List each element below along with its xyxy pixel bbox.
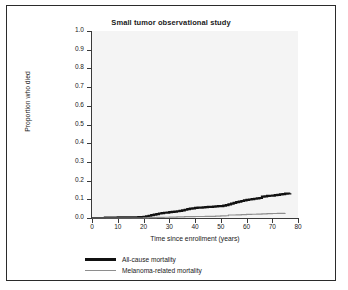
y-tick-label: 0.5 [66, 121, 84, 128]
y-tick-mark [87, 87, 91, 88]
y-tick-mark [87, 199, 91, 200]
y-tick-mark [87, 218, 91, 219]
survival-curve-chart: Small tumor observational study 0.00.10.… [7, 6, 335, 280]
y-tick-label: 0.1 [66, 195, 84, 202]
y-tick-label: 0.7 [66, 83, 84, 90]
y-tick-label: 0.4 [66, 139, 84, 146]
y-tick-label: 0.9 [66, 46, 84, 53]
chart-title: Small tumor observational study [7, 18, 335, 27]
y-tick-label: 0.6 [66, 102, 84, 109]
x-tick-label: 60 [237, 224, 257, 231]
x-tick-label: 0 [82, 224, 102, 231]
legend-item-all-cause: All-cause mortality [85, 254, 285, 265]
plot-area [92, 31, 298, 218]
y-tick-label: 0.0 [66, 214, 84, 221]
x-tick-label: 70 [262, 224, 282, 231]
x-tick-label: 80 [288, 224, 308, 231]
legend-label-melanoma: Melanoma-related mortality [122, 267, 202, 274]
legend-label-all-cause: All-cause mortality [122, 256, 176, 263]
legend-line-icon-melanoma [85, 270, 116, 271]
y-tick-mark [87, 125, 91, 126]
y-tick-mark [87, 50, 91, 51]
y-tick-mark [87, 181, 91, 182]
y-tick-label: 0.2 [66, 177, 84, 184]
y-tick-mark [87, 143, 91, 144]
figure-frame: Small tumor observational study 0.00.10.… [6, 5, 336, 281]
x-tick-label: 50 [211, 224, 231, 231]
plot-curves [92, 31, 298, 218]
chart-legend: All-cause mortality Melanoma-related mor… [85, 254, 285, 276]
x-axis-title: Time since enrollment (years) [92, 235, 298, 242]
y-tick-label: 1.0 [66, 27, 84, 34]
legend-line-icon-all-cause [85, 258, 116, 260]
y-tick-mark [87, 68, 91, 69]
x-tick-label: 40 [185, 224, 205, 231]
y-tick-label: 0.3 [66, 158, 84, 165]
legend-item-melanoma: Melanoma-related mortality [85, 265, 285, 276]
y-tick-mark [87, 31, 91, 32]
x-tick-label: 10 [108, 224, 128, 231]
y-axis-title: Proportion who died [24, 47, 31, 157]
x-tick-label: 20 [134, 224, 154, 231]
y-tick-mark [87, 106, 91, 107]
y-tick-label: 0.8 [66, 64, 84, 71]
x-tick-label: 30 [159, 224, 179, 231]
y-tick-mark [87, 162, 91, 163]
